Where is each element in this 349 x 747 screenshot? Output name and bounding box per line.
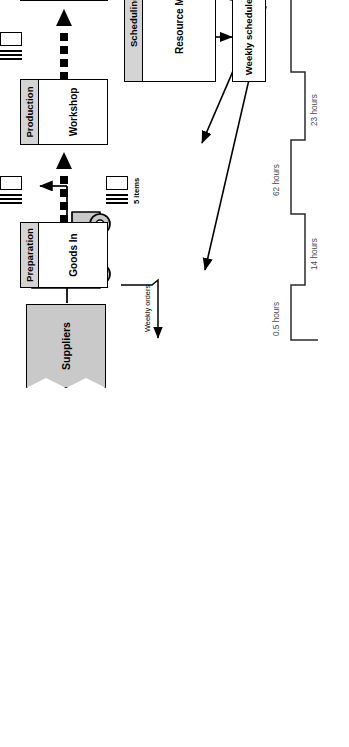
process-preparation-body: Goods In bbox=[39, 223, 107, 287]
inventory-box-icon bbox=[0, 176, 22, 190]
inventory-bars-icon bbox=[0, 192, 22, 204]
process-scheduling: Scheduling Resource Mgt bbox=[124, 0, 216, 82]
inventory-count-1: 5 items bbox=[132, 178, 141, 204]
weekly-schedule-box: Weekly schedule bbox=[232, 0, 266, 82]
process-preparation-title: Preparation bbox=[21, 223, 39, 287]
inventory-box-icon bbox=[0, 32, 22, 46]
timeline-label-3: 62 hours bbox=[272, 164, 281, 196]
value-stream-map-canvas: Suppliers Customers Weekly Fortnightly S… bbox=[0, 0, 349, 398]
diagram-stage: Suppliers Customers Weekly Fortnightly S… bbox=[0, 0, 349, 747]
entity-suppliers: Suppliers bbox=[26, 304, 106, 388]
weekly-schedule-label: Weekly schedule bbox=[233, 0, 265, 81]
timeline-label-2: 14 hours bbox=[310, 238, 319, 270]
inventory-box-icon bbox=[106, 176, 128, 190]
entity-suppliers-label: Suppliers bbox=[60, 322, 72, 370]
process-production-body: Workshop bbox=[39, 80, 107, 144]
process-testing: Testing Workshop bbox=[20, 0, 108, 1]
inventory-bars-icon bbox=[0, 48, 22, 60]
process-production: Production Workshop bbox=[20, 79, 108, 145]
weekly-orders-label: Weekly orders bbox=[143, 285, 152, 332]
process-preparation: Preparation Goods In bbox=[20, 222, 108, 288]
process-production-title: Production bbox=[21, 80, 39, 144]
inventory-bars-icon bbox=[106, 192, 128, 204]
timeline-label-4: 23 hours bbox=[310, 94, 319, 126]
timeline-label-1: 0.5 hours bbox=[272, 302, 281, 336]
scheduling-body: Resource Mgt bbox=[143, 0, 215, 81]
scheduling-title: Scheduling bbox=[125, 0, 143, 81]
